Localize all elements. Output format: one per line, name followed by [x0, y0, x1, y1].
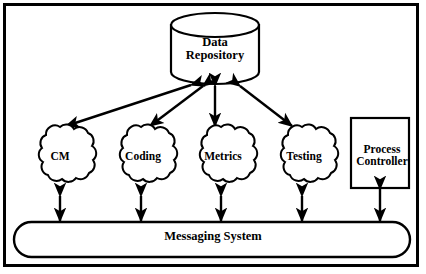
arrow-repository-cm — [66, 85, 191, 126]
cloud-testing — [281, 125, 338, 182]
cloud-coding — [120, 125, 177, 182]
data-repository-cylinder — [171, 13, 259, 84]
cloud-shapes — [39, 125, 338, 182]
arrow-repository-testing — [240, 86, 292, 126]
cloud-cm — [39, 125, 96, 182]
bus-connector-arrows — [60, 189, 380, 221]
repository-connector-arrows — [66, 85, 292, 126]
arrow-repository-coding — [150, 86, 203, 126]
process-controller-box — [351, 118, 409, 188]
diagram-vector-layer — [0, 0, 426, 274]
diagram-canvas: Data Repository CM Coding Metrics Testin… — [0, 0, 426, 274]
messaging-system-bar — [14, 222, 410, 257]
cloud-metrics — [200, 125, 257, 182]
